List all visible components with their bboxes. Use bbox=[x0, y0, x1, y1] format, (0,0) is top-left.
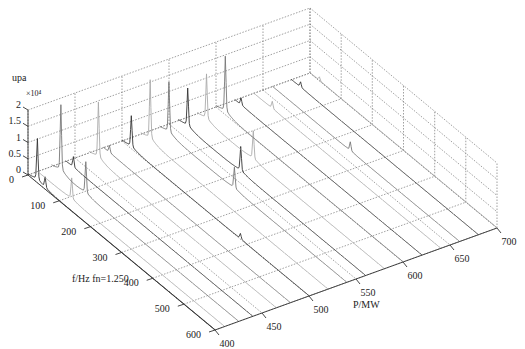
tick-label: 0 bbox=[9, 174, 14, 185]
spectrum-slice bbox=[235, 98, 422, 255]
spectrum-slice bbox=[197, 74, 384, 269]
tick-label: 500 bbox=[314, 304, 329, 315]
tick-label: 400 bbox=[220, 338, 235, 349]
tick-label: 200 bbox=[61, 226, 76, 237]
spectrum-slice bbox=[272, 86, 459, 241]
spectrum-slice bbox=[52, 105, 239, 322]
tick-label: 600 bbox=[186, 329, 201, 340]
spectrum-slice bbox=[178, 88, 365, 275]
tick-label: 500 bbox=[155, 303, 170, 314]
spectrum-slice bbox=[216, 56, 403, 262]
axes bbox=[22, 107, 501, 335]
tick-label: 600 bbox=[408, 270, 423, 281]
tick-label: 650 bbox=[455, 253, 470, 264]
tick-label: 1.5 bbox=[9, 115, 22, 126]
spectrum-slice bbox=[37, 171, 224, 326]
tick-label: 0 bbox=[16, 164, 21, 175]
tick-label: 300 bbox=[93, 252, 108, 263]
tick-label: 2 bbox=[16, 99, 21, 110]
spectrum-slice bbox=[254, 93, 441, 248]
spectrum-slices bbox=[28, 56, 497, 330]
p-axis-label: P/MW bbox=[353, 299, 380, 310]
tick-label: 700 bbox=[502, 236, 517, 247]
z-multiplier: ×10⁴ bbox=[26, 89, 42, 98]
tick-label: 550 bbox=[361, 287, 376, 298]
tick-label: 0.5 bbox=[9, 148, 22, 159]
tick-label: 1 bbox=[16, 132, 21, 143]
z-axis-label: upa bbox=[12, 72, 27, 83]
tick-label: 450 bbox=[267, 321, 282, 332]
tick-labels: 0100200300400500600400450500550600650700… bbox=[9, 99, 517, 349]
tick-label: 100 bbox=[30, 200, 45, 211]
f-axis-label: f/Hz fn=1.250 bbox=[72, 273, 129, 284]
waterfall-chart: 0100200300400500600400450500550600650700… bbox=[0, 0, 525, 349]
